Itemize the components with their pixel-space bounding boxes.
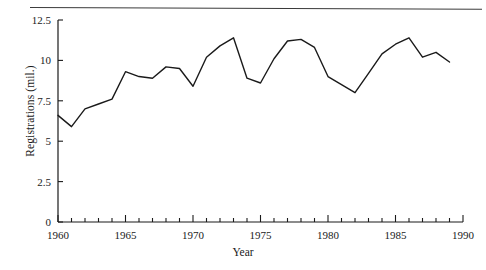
x-tick-label-1: 1965: [115, 229, 138, 241]
y-tick-label-3: 7.5: [37, 95, 51, 107]
y-tick-label-0: 0: [46, 216, 52, 228]
x-tick-label-2: 1970: [182, 229, 205, 241]
x-tick-label-5: 1985: [385, 229, 408, 241]
chart-figure: Registrations (mil.) Year 02.557.51012.5…: [0, 0, 486, 270]
line-plot: 02.557.51012.519601965197019751980198519…: [0, 0, 486, 270]
y-tick-label-5: 12.5: [32, 14, 52, 26]
x-tick-label-0: 1960: [47, 229, 70, 241]
x-tick-label-6: 1990: [452, 229, 475, 241]
x-tick-label-4: 1980: [317, 229, 340, 241]
y-tick-label-1: 2.5: [37, 176, 51, 188]
y-tick-label-4: 10: [40, 54, 52, 66]
data-line-registrations: [58, 38, 450, 127]
y-tick-label-2: 5: [46, 135, 52, 147]
x-tick-label-3: 1975: [250, 229, 273, 241]
